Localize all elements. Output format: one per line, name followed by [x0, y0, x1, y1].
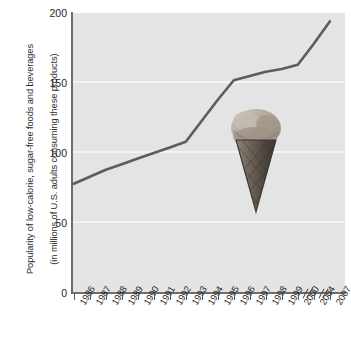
x-tick-1989 [122, 294, 123, 300]
x-tick-1988 [106, 294, 107, 300]
x-tick-1997 [250, 294, 251, 300]
x-tick-1986 [74, 294, 75, 300]
x-tick-2000 [298, 294, 299, 300]
y-tick-label-0: 0 [27, 287, 67, 299]
gridline-100 [73, 151, 345, 153]
x-tick-1990 [138, 294, 139, 300]
x-tick-1987 [90, 294, 91, 300]
x-tick-2007 [330, 294, 331, 300]
y-tick-label-200: 200 [27, 7, 67, 19]
x-tick-1992 [170, 294, 171, 300]
x-tick-1999 [282, 294, 283, 300]
y-tick-label-100: 100 [27, 147, 67, 159]
x-tick-1995 [218, 294, 219, 300]
x-tick-1998 [266, 294, 267, 300]
gridline-150 [73, 81, 345, 83]
x-tick-1996 [234, 294, 235, 300]
y-axis-title: Popularity of low-calorie, sugar-free fo… [19, 19, 53, 299]
x-tick-2004 [314, 294, 315, 300]
x-tick-1991 [154, 294, 155, 300]
chart-container: Popularity of low-calorie, sugar-free fo… [0, 0, 351, 346]
x-tick-1993 [186, 294, 187, 300]
plot-area [73, 13, 345, 293]
y-tick-label-150: 150 [27, 77, 67, 89]
y-tick-label-50: 50 [27, 217, 67, 229]
y-axis-line [71, 12, 73, 294]
x-tick-1994 [202, 294, 203, 300]
gridline-50 [73, 221, 345, 223]
